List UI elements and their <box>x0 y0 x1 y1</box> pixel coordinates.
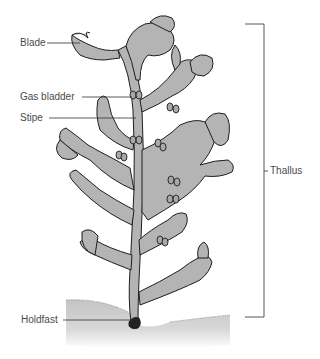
label-gas-bladder: Gas bladder <box>20 91 74 103</box>
seaweed-illustration <box>0 0 320 359</box>
seaweed-diagram: Blade Gas bladder Stipe Thallus Holdfast <box>0 0 320 359</box>
substrate-rock <box>66 300 230 349</box>
label-holdfast: Holdfast <box>21 314 58 326</box>
thallus-bracket <box>245 24 268 317</box>
label-blade: Blade <box>20 37 46 49</box>
thallus-body <box>56 16 233 322</box>
label-stipe: Stipe <box>20 112 43 124</box>
label-thallus: Thallus <box>270 165 302 177</box>
